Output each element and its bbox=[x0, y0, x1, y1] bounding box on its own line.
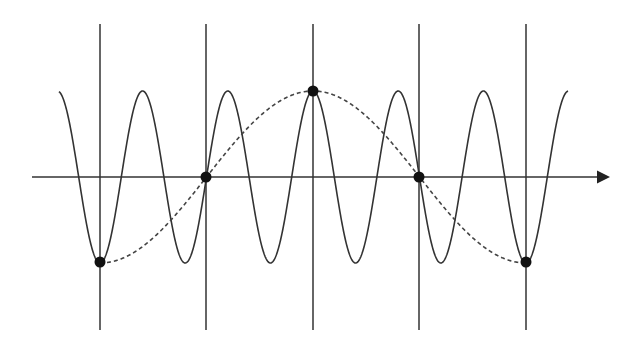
sample-point-4 bbox=[414, 172, 425, 183]
sample-point-5 bbox=[521, 257, 532, 268]
arrow-right-icon bbox=[597, 171, 610, 184]
aliasing-diagram bbox=[0, 0, 638, 343]
sample-point-1 bbox=[95, 257, 106, 268]
sample-point-3 bbox=[308, 86, 319, 97]
sample-point-2 bbox=[201, 172, 212, 183]
